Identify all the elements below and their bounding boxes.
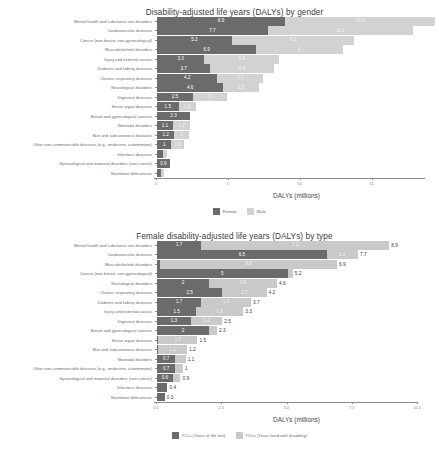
- bar-segment-primary[interactable]: 1.3: [157, 317, 191, 326]
- bar-segment-primary[interactable]: 2.5: [157, 288, 222, 297]
- bar-segment-primary[interactable]: 4.6: [157, 83, 223, 92]
- bar-group: 1.51.2: [157, 102, 439, 111]
- bar-segment-primary[interactable]: 7.7: [157, 26, 268, 35]
- bar-value-label: 5.2: [191, 37, 197, 43]
- bar-segment-primary[interactable]: 6.9: [157, 45, 256, 54]
- bar-segment-secondary[interactable]: 2.6: [209, 279, 277, 288]
- bar-segment-secondary[interactable]: [173, 374, 181, 383]
- bar-segment-secondary[interactable]: 6: [256, 45, 342, 54]
- legend-item[interactable]: YLLs (Years of life lost): [172, 432, 226, 439]
- bar-segment-secondary[interactable]: [163, 150, 167, 159]
- bar-segment-secondary[interactable]: 1.9: [201, 298, 251, 307]
- category-label: Sense organ diseases: [0, 338, 155, 343]
- bar-segment-secondary[interactable]: 2.4: [193, 93, 228, 102]
- bar-row: Gynecological and maternal disorders (no…: [0, 374, 439, 383]
- legend-label: Male: [257, 209, 266, 214]
- bar-value-label: 8.9: [218, 18, 224, 24]
- bar-segment-primary[interactable]: 2: [157, 279, 209, 288]
- bar-row: Musculoskeletal disorders6.86.9: [0, 260, 439, 269]
- bar-segment-primary[interactable]: [157, 393, 165, 402]
- bar-value-label: 2.5: [238, 85, 244, 91]
- bar-segment-secondary[interactable]: 1.2: [191, 317, 222, 326]
- bar-segment-primary[interactable]: 1: [157, 140, 171, 149]
- x-axis-type: 0.02.55.07.510.0: [154, 402, 439, 413]
- category-label: Sense organ diseases: [0, 104, 155, 109]
- bar-value-label: 5.2: [239, 56, 245, 62]
- bar-segment-secondary[interactable]: 10.1: [268, 26, 413, 35]
- bar-segment-primary[interactable]: 2.5: [157, 93, 193, 102]
- bar-segment-secondary[interactable]: 1.2: [327, 250, 358, 259]
- bar-row: Cancer (non-breast, non-gynecological)5.…: [0, 36, 439, 45]
- bar-value-label: 2: [182, 328, 185, 334]
- bar-segment-primary[interactable]: 5.2: [157, 36, 232, 45]
- bar-value-label: 0.9: [160, 161, 166, 167]
- bar-segment-primary[interactable]: 2: [157, 326, 209, 335]
- bar-row: Cardiovascular diseases7.710.1: [0, 26, 439, 35]
- bar-value-label: 2.3: [170, 113, 176, 119]
- legend-item[interactable]: YLDs (Years lived with disability): [236, 432, 307, 439]
- bar-value-label: 2.4: [207, 94, 213, 100]
- legend-swatch-icon: [247, 208, 254, 215]
- bar-value-label: 1.2: [203, 318, 209, 324]
- category-label: Injury and external causes: [0, 57, 155, 62]
- bar-segment-primary[interactable]: 6.5: [157, 250, 327, 259]
- bar-segment-secondary[interactable]: [161, 169, 164, 178]
- bar-segment-secondary[interactable]: 3.2: [217, 74, 263, 83]
- bar-segment-secondary[interactable]: 8.5: [232, 36, 354, 45]
- legend-gender: FemaleMale: [40, 208, 439, 215]
- bar-segment-primary[interactable]: 1.5: [157, 307, 196, 316]
- bar-segment-secondary[interactable]: 2.5: [223, 83, 259, 92]
- bar-segment-primary[interactable]: 3.7: [157, 64, 210, 73]
- category-label: Nutritional deficiencies: [0, 395, 155, 400]
- bar-segment-primary[interactable]: 5: [157, 269, 288, 278]
- bar-group: 6.51.27.7: [157, 250, 439, 259]
- bar-segment-primary[interactable]: 0.6: [157, 374, 173, 383]
- bar-segment-secondary[interactable]: [209, 326, 217, 335]
- bar-row: Infectious diseases0.4: [0, 383, 439, 392]
- bar-segment-secondary[interactable]: [175, 355, 185, 364]
- bar-segment-primary[interactable]: 1.1: [157, 121, 173, 130]
- bar-segment-secondary[interactable]: 1.8: [196, 307, 243, 316]
- bar-value-label: 1: [180, 132, 183, 138]
- bar-segment-primary[interactable]: 1.7: [157, 241, 201, 250]
- bar-segment-secondary[interactable]: 1.5: [158, 336, 197, 345]
- axis-tick-label: 15: [370, 181, 374, 186]
- bar-segment-primary[interactable]: 8.9: [157, 17, 285, 26]
- category-label: Chronic respiratory diseases: [0, 290, 155, 295]
- bar-segment-secondary[interactable]: 5.2: [204, 55, 279, 64]
- bar-segment-primary[interactable]: 0.7: [157, 364, 175, 373]
- bar-segment-primary[interactable]: 2.3: [157, 112, 190, 121]
- bar-segment-secondary[interactable]: 1.2: [173, 121, 190, 130]
- bar-segment-primary[interactable]: 4.2: [157, 74, 217, 83]
- bar-segment-primary[interactable]: 0.7: [157, 355, 175, 364]
- bar-group: 0.4: [157, 383, 439, 392]
- bar-total-label: 0.9: [180, 374, 189, 383]
- bar-segment-secondary[interactable]: 1.2: [179, 102, 196, 111]
- bar-segment-secondary[interactable]: 1: [174, 131, 188, 140]
- category-label: Skin and subcutaneous diseases: [0, 347, 155, 352]
- legend-item[interactable]: Male: [247, 208, 266, 215]
- bar-segment-secondary[interactable]: 1.7: [222, 288, 266, 297]
- bar-segment-primary[interactable]: [157, 383, 167, 392]
- legend-swatch-icon: [236, 432, 243, 439]
- legend-item[interactable]: Female: [213, 208, 237, 215]
- category-label: Chronic respiratory diseases: [0, 76, 155, 81]
- bar-segment-primary[interactable]: 0.9: [157, 159, 170, 168]
- bar-segment-primary[interactable]: 1.5: [157, 102, 179, 111]
- bar-segment-secondary[interactable]: 0.9: [171, 140, 184, 149]
- bar-group: 2.3: [157, 112, 439, 121]
- bar-segment-secondary[interactable]: 10.4: [285, 17, 435, 26]
- category-label: Gynecological and maternal disorders (no…: [0, 161, 155, 166]
- bar-segment-primary[interactable]: 1.7: [157, 298, 201, 307]
- bar-segment-secondary[interactable]: 7.2: [201, 241, 389, 250]
- bar-segment-secondary[interactable]: [175, 364, 183, 373]
- bar-segment-primary[interactable]: 1.2: [157, 131, 174, 140]
- bar-segment-secondary[interactable]: 6.8: [160, 260, 337, 269]
- bar-segment-secondary[interactable]: 1.1: [158, 345, 187, 354]
- bar-segment-primary[interactable]: 3.3: [157, 55, 204, 64]
- bar-segment-secondary[interactable]: 4.4: [210, 64, 273, 73]
- bar-value-label: 3.7: [180, 66, 186, 72]
- chart-title-gender: Disability-adjusted life years (DALYs) b…: [0, 0, 439, 17]
- bar-total-label: 1: [183, 364, 188, 373]
- bar-value-label: 1.9: [223, 299, 229, 305]
